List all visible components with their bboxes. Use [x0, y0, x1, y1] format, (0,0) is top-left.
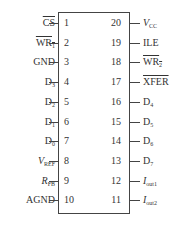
pin-label: D4	[143, 95, 153, 112]
pin-label: XFER	[143, 75, 169, 89]
pin-label: WR2	[143, 55, 162, 72]
pin-label: D6	[143, 134, 153, 151]
pin-label: D7	[143, 154, 153, 171]
pin-lead	[130, 141, 140, 142]
pin-lead	[130, 122, 140, 123]
pin-row-right: 17XFER	[0, 75, 179, 89]
pin-number: 18	[111, 55, 121, 69]
pin-number: 12	[111, 174, 121, 188]
pin-number: 11	[111, 193, 121, 207]
pin-lead	[130, 181, 140, 182]
pin-number: 20	[111, 16, 121, 30]
pin-row-right: 19ILE	[0, 36, 179, 50]
pin-number: 15	[111, 115, 121, 129]
pin-row-right: 14D6	[0, 134, 179, 148]
pin-number: 14	[111, 134, 121, 148]
pin-row-right: 12Iout1	[0, 174, 179, 188]
pin-lead	[130, 82, 140, 83]
pin-label: D5	[143, 115, 153, 132]
pin-lead	[130, 62, 140, 63]
pin-row-right: 18WR2	[0, 55, 179, 69]
pin-row-right: 15D5	[0, 115, 179, 129]
pin-label: Iout1	[143, 174, 157, 191]
pin-row-right: 11Iout2	[0, 193, 179, 207]
pin-lead	[130, 102, 140, 103]
pin-row-right: 20VCC	[0, 16, 179, 30]
pin-number: 13	[111, 154, 121, 168]
pin-lead	[130, 200, 140, 201]
pin-number: 17	[111, 75, 121, 89]
pin-row-right: 16D4	[0, 95, 179, 109]
pin-label: ILE	[143, 36, 159, 50]
pin-label: Iout2	[143, 193, 157, 210]
pin-label: VCC	[143, 16, 157, 33]
pin-row-right: 13D7	[0, 154, 179, 168]
pin-number: 19	[111, 36, 121, 50]
pin-lead	[130, 23, 140, 24]
pin-lead	[130, 43, 140, 44]
pin-number: 16	[111, 95, 121, 109]
pin-lead	[130, 161, 140, 162]
